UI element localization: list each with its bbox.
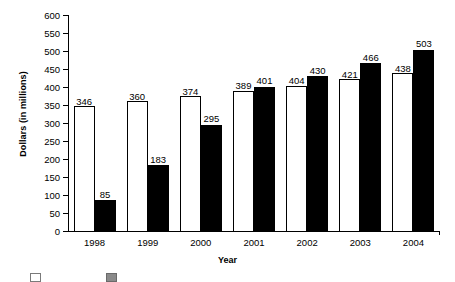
y-axis-tick-label: 350 bbox=[34, 100, 60, 111]
bar: 430 bbox=[307, 76, 328, 231]
bar: 85 bbox=[95, 200, 116, 231]
y-axis-tick-label: 550 bbox=[34, 28, 60, 39]
bar-group: 3601831999 bbox=[127, 15, 169, 231]
bar: 503 bbox=[413, 50, 434, 231]
bar: 295 bbox=[201, 125, 222, 231]
dark-swatch bbox=[106, 273, 117, 282]
y-axis-tick-label: 0 bbox=[34, 226, 60, 237]
bar-value-label: 401 bbox=[257, 76, 273, 86]
y-axis-tick-label: 300 bbox=[34, 118, 60, 129]
y-axis-tick bbox=[63, 87, 68, 88]
y-axis-tick bbox=[63, 69, 68, 70]
x-axis-title: Year bbox=[0, 255, 455, 265]
bar-value-label: 183 bbox=[150, 155, 166, 165]
x-axis-tick-label: 1999 bbox=[137, 237, 158, 248]
y-axis-tick bbox=[63, 195, 68, 196]
bar: 360 bbox=[127, 101, 148, 231]
x-axis-line bbox=[68, 231, 440, 232]
bar-value-label: 85 bbox=[100, 190, 111, 200]
bar: 438 bbox=[392, 73, 413, 231]
x-axis-tick-label: 1998 bbox=[84, 237, 105, 248]
y-axis-tick bbox=[63, 33, 68, 34]
y-axis-line bbox=[68, 15, 69, 231]
bar: 421 bbox=[339, 79, 360, 231]
y-axis-tick bbox=[63, 141, 68, 142]
y-axis-tick-label: 250 bbox=[34, 136, 60, 147]
y-axis-tick-label: 600 bbox=[34, 10, 60, 21]
bar: 404 bbox=[286, 86, 307, 231]
bar-value-label: 438 bbox=[395, 64, 411, 74]
bar-value-label: 295 bbox=[203, 114, 219, 124]
legend-item bbox=[106, 273, 122, 282]
y-axis-tick-label: 150 bbox=[34, 172, 60, 183]
y-axis-tick-label: 100 bbox=[34, 190, 60, 201]
y-axis-tick bbox=[63, 105, 68, 106]
bar-value-label: 374 bbox=[182, 87, 198, 97]
y-axis-tick-label: 200 bbox=[34, 154, 60, 165]
legend-item bbox=[30, 273, 46, 282]
bar: 466 bbox=[360, 63, 381, 231]
bar-group: 3894012001 bbox=[233, 15, 275, 231]
x-axis-tick-label: 2000 bbox=[190, 237, 211, 248]
y-axis-tick-label: 500 bbox=[34, 46, 60, 57]
x-axis-tick-label: 2001 bbox=[243, 237, 264, 248]
bar: 346 bbox=[74, 106, 95, 231]
y-axis-tick bbox=[63, 15, 68, 16]
y-axis-tick bbox=[63, 213, 68, 214]
y-axis-tick bbox=[63, 51, 68, 52]
bar-group: 4044302002 bbox=[286, 15, 328, 231]
bar-value-label: 466 bbox=[363, 53, 379, 63]
x-axis-endcap bbox=[439, 231, 440, 235]
bar-group: 4214662003 bbox=[339, 15, 381, 231]
y-axis-tick bbox=[63, 177, 68, 178]
bar-value-label: 404 bbox=[289, 76, 305, 86]
bar-group: 346851998 bbox=[74, 15, 116, 231]
bar-value-label: 389 bbox=[236, 81, 252, 91]
x-axis-tick-label: 2003 bbox=[350, 237, 371, 248]
y-axis-tick bbox=[63, 123, 68, 124]
y-axis-tick-label: 400 bbox=[34, 82, 60, 93]
bar-group: 4385032004 bbox=[392, 15, 434, 231]
bar-value-label: 430 bbox=[310, 66, 326, 76]
chart-legend bbox=[30, 273, 122, 282]
y-axis-tick bbox=[63, 159, 68, 160]
bar-value-label: 421 bbox=[342, 70, 358, 80]
y-axis-tick bbox=[63, 231, 68, 232]
bar: 389 bbox=[233, 91, 254, 231]
bar: 183 bbox=[148, 165, 169, 231]
plot-area: 050100150200250300350400450500550600 346… bbox=[68, 15, 440, 231]
bar: 401 bbox=[254, 87, 275, 231]
bar-value-label: 503 bbox=[416, 39, 432, 49]
x-axis-tick-label: 2002 bbox=[297, 237, 318, 248]
bar-value-label: 360 bbox=[129, 92, 145, 102]
light-swatch bbox=[30, 273, 41, 282]
y-axis-tick-label: 450 bbox=[34, 64, 60, 75]
y-axis-tick-label: 50 bbox=[34, 208, 60, 219]
bar-value-label: 346 bbox=[76, 97, 92, 107]
bar: 374 bbox=[180, 96, 201, 231]
bar-group: 3742952000 bbox=[180, 15, 222, 231]
y-axis-title: Dollars (in millions) bbox=[18, 44, 28, 184]
x-axis-tick-label: 2004 bbox=[403, 237, 424, 248]
